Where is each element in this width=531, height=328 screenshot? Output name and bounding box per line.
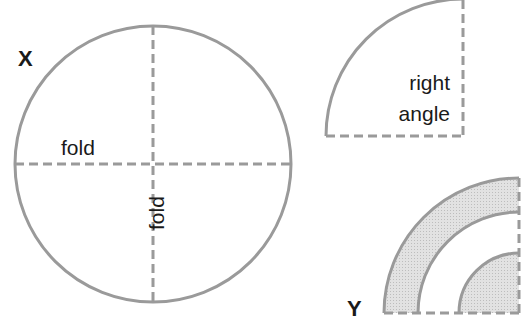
figure-quarter: right angle [326,0,463,136]
figure-x-label: X [18,46,33,71]
right-angle-label-line1: right [409,71,450,94]
figure-y: Y [347,178,519,321]
right-angle-label-line2: angle [399,102,450,125]
circle-outline [15,26,291,302]
diagram-canvas: X fold fold right angle Y [0,0,531,328]
fold-label-vertical: fold [145,196,168,230]
fold-label-horizontal: fold [61,136,95,159]
figure-y-label: Y [347,296,362,321]
figure-x: X fold fold [15,26,291,302]
